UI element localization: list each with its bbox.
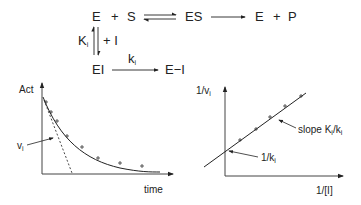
regression-line [204,93,306,167]
equilibrium-arrow [144,15,176,19]
vi-pointer-arrow [27,138,53,145]
left-ylabel: Act [19,85,33,95]
slope-pointer-arrow [279,120,296,128]
diagram-graphics [0,0,361,205]
species-E-product: E [255,10,264,23]
intercept-label: 1/ki [261,153,276,164]
ki-label: ki [128,52,136,66]
left-plot-axes [42,83,173,174]
species-S: S [127,10,136,23]
decay-curve [43,97,160,172]
vertical-equilibrium-arrow [94,27,98,55]
left-data-points [44,100,144,168]
right-xlabel: 1/[I] [316,186,333,196]
plus-sign: + [111,10,119,23]
species-EI: EI [92,63,104,76]
species-E-I: E−I [165,63,185,76]
species-P: P [288,10,297,23]
slope-label: slope Ki/ki [298,125,342,136]
plus-I-label: + I [103,34,118,47]
species-ES: ES [185,10,202,23]
intercept-pointer-arrow [229,151,258,157]
left-xlabel: time [144,185,163,195]
species-E: E [92,10,101,23]
vi-label: vi [17,141,24,152]
right-ylabel: 1/vi [196,86,211,97]
plus-sign-2: + [273,10,281,23]
Ki-label: Ki [78,34,88,48]
initial-rate-tangent [44,100,72,173]
